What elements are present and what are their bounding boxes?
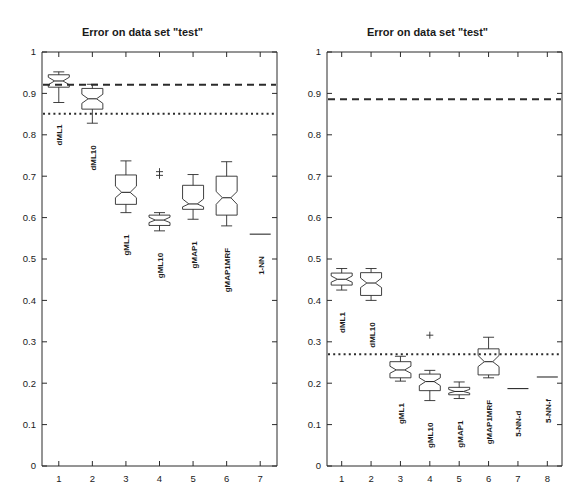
boxplot-box <box>216 162 237 226</box>
x-tick-label: 6 <box>486 473 491 484</box>
boxplot-box <box>361 269 382 301</box>
category-label: dML10 <box>89 145 98 171</box>
y-tick-label: 0 <box>31 460 36 471</box>
y-tick-label: 0.8 <box>23 129 36 140</box>
y-tick-label: 0.6 <box>308 212 321 223</box>
boxplot-box <box>449 382 470 399</box>
boxplot-svg-right: 00.10.20.30.40.50.60.70.80.9112345678dML… <box>285 0 570 502</box>
boxplot-panel-right: Error on data set "test" 00.10.20.30.40.… <box>285 0 570 502</box>
boxplot-box <box>478 337 499 378</box>
x-tick-label: 4 <box>427 473 432 484</box>
y-tick-label: 0.7 <box>308 171 321 182</box>
y-tick-label: 0.5 <box>23 253 36 264</box>
box-outline <box>183 185 204 209</box>
x-tick-label: 6 <box>224 473 229 484</box>
x-tick-label: 2 <box>368 473 373 484</box>
x-tick-label: 2 <box>90 473 95 484</box>
boxplot-box <box>115 161 136 213</box>
y-tick-label: 0.9 <box>23 88 36 99</box>
x-tick-label: 7 <box>258 473 263 484</box>
x-tick-label: 1 <box>339 473 344 484</box>
y-tick-label: 0.4 <box>23 295 36 306</box>
y-tick-label: 0.5 <box>308 253 321 264</box>
x-tick-label: 1 <box>56 473 61 484</box>
y-tick-label: 0.2 <box>308 378 321 389</box>
y-tick-label: 1 <box>31 46 36 57</box>
y-tick-label: 0.3 <box>23 336 36 347</box>
box-outline <box>361 273 382 296</box>
category-label: gMAP1MRF <box>485 400 494 445</box>
y-tick-label: 0.1 <box>308 419 321 430</box>
y-tick-label: 0.4 <box>308 295 321 306</box>
x-tick-label: 8 <box>545 473 550 484</box>
category-label: gMAP1 <box>190 241 199 269</box>
y-tick-label: 0.6 <box>23 212 36 223</box>
category-label: gMAP1 <box>456 420 465 448</box>
boxplot-box <box>149 168 170 231</box>
x-tick-label: 4 <box>157 473 162 484</box>
y-tick-label: 0 <box>316 460 321 471</box>
figure-canvas: Error on data set "test" 00.10.20.30.40.… <box>0 0 570 502</box>
category-label: 5-NN-d <box>514 410 523 436</box>
boxplot-box <box>183 175 204 220</box>
boxplot-box <box>82 84 103 123</box>
x-tick-label: 3 <box>398 473 403 484</box>
category-label: 1-NN <box>257 256 266 275</box>
category-label: gMAP1MRF <box>223 248 232 293</box>
axis-frame <box>327 52 562 466</box>
x-tick-label: 3 <box>123 473 128 484</box>
y-tick-label: 0.9 <box>308 88 321 99</box>
y-tick-label: 0.3 <box>308 336 321 347</box>
y-tick-label: 0.1 <box>23 419 36 430</box>
axis-frame-outer <box>327 52 562 466</box>
boxplot-box <box>390 356 411 381</box>
x-tick-label: 7 <box>515 473 520 484</box>
y-tick-label: 0.7 <box>23 171 36 182</box>
category-label: gML1 <box>122 234 131 255</box>
boxplot-box <box>331 269 352 291</box>
x-tick-label: 5 <box>457 473 462 484</box>
category-label: dML10 <box>368 322 377 348</box>
boxplot-box <box>419 332 440 401</box>
boxplot-panel-left: Error on data set "test" 00.10.20.30.40.… <box>0 0 285 502</box>
category-label: gML1 <box>397 403 406 424</box>
y-tick-label: 0.2 <box>23 378 36 389</box>
category-label: dML1 <box>55 124 64 145</box>
category-label: gML10 <box>426 422 435 448</box>
boxplot-svg-left: 00.10.20.30.40.50.60.70.80.911234567dML1… <box>0 0 285 502</box>
box-outline <box>419 374 440 391</box>
y-tick-label: 0.8 <box>308 129 321 140</box>
boxplot-box <box>48 72 69 103</box>
x-tick-label: 5 <box>190 473 195 484</box>
y-tick-label: 1 <box>316 46 321 57</box>
box-outline <box>115 175 136 204</box>
category-label: 5-NN-f <box>544 399 553 423</box>
category-label: gML10 <box>156 252 165 278</box>
category-label: dML1 <box>338 312 347 333</box>
box-outline <box>216 176 237 215</box>
